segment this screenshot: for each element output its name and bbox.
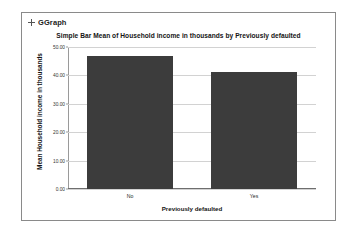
x-axis-title: Previously defaulted bbox=[68, 205, 316, 212]
bars bbox=[68, 47, 316, 189]
x-tick-label: Yes bbox=[250, 193, 258, 199]
bar-chart[interactable]: Simple Bar Mean of Household income in t… bbox=[22, 28, 335, 220]
chart-title: Simple Bar Mean of Household income in t… bbox=[22, 32, 335, 39]
gridline bbox=[68, 189, 316, 190]
bar-yes[interactable] bbox=[211, 72, 298, 189]
y-tick-label: 30.00 bbox=[53, 101, 65, 106]
y-tick-label: 10.00 bbox=[53, 158, 65, 163]
spss-output-frame: GGraph Simple Bar Mean of Household inco… bbox=[21, 12, 336, 221]
y-axis-title: Mean Household income in thousands bbox=[36, 42, 43, 182]
plus-icon[interactable] bbox=[28, 19, 35, 26]
ggraph-procedure-header[interactable]: GGraph bbox=[28, 17, 67, 28]
y-tick-label: 40.00 bbox=[53, 73, 65, 78]
plot-area: 0.0010.0020.0030.0040.0050.00 NoYes bbox=[68, 47, 316, 189]
ggraph-label: GGraph bbox=[38, 18, 67, 27]
y-tick-label: 50.00 bbox=[53, 45, 65, 50]
y-tick-label: 0.00 bbox=[56, 187, 65, 192]
bar-no[interactable] bbox=[87, 56, 174, 189]
x-tick-label: No bbox=[127, 193, 134, 199]
y-tick-label: 20.00 bbox=[53, 130, 65, 135]
